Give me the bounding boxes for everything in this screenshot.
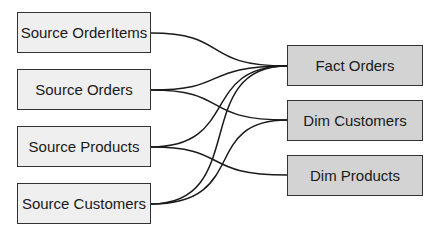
node-label: Dim Customers [303,112,406,129]
node-label: Source Customers [22,195,146,212]
source-orders-node[interactable]: Source Orders [17,69,151,110]
node-label: Fact Orders [315,57,394,74]
node-label: Source OrderItems [21,24,148,41]
edge-orderitems-fact-orders [151,33,287,66]
edge-orders-dim-customers [151,90,287,120]
edge-customers-fact-orders [151,66,287,204]
node-label: Source Products [29,138,140,155]
fact-orders-node[interactable]: Fact Orders [287,45,423,86]
edge-products-fact-orders [151,66,287,147]
dim-customers-node[interactable]: Dim Customers [287,100,423,141]
source-orderitems-node[interactable]: Source OrderItems [17,12,151,53]
source-products-node[interactable]: Source Products [17,126,151,167]
dim-products-node[interactable]: Dim Products [287,155,423,196]
node-label: Dim Products [310,167,400,184]
edge-orders-fact-orders [151,66,287,90]
source-customers-node[interactable]: Source Customers [17,183,151,224]
node-label: Source Orders [35,81,133,98]
